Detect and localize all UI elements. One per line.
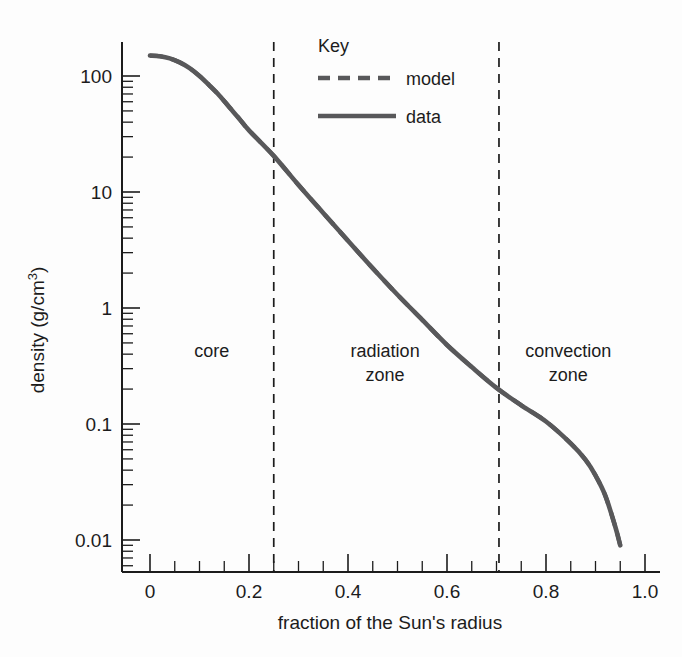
y-axis-title: density (g/cm3)	[25, 267, 48, 394]
axes	[122, 42, 660, 572]
y-tick-label: 0.1	[86, 414, 112, 435]
legend-label-model: model	[406, 69, 455, 89]
density-vs-radius-chart: 1001010.10.01 00.20.40.60.81.0 coreradia…	[0, 0, 682, 657]
x-axis-title: fraction of the Sun's radius	[278, 612, 502, 633]
legend-title: Key	[318, 36, 349, 56]
y-tick-label: 0.01	[75, 530, 112, 551]
zone-label: radiation	[351, 341, 420, 361]
zone-label-line2: zone	[549, 365, 588, 385]
legend: Key model data	[318, 36, 455, 127]
y-axis-tick-labels: 1001010.10.01	[75, 66, 112, 551]
x-axis-tick-labels: 00.20.40.60.81.0	[145, 581, 659, 602]
model-curve	[150, 56, 620, 546]
x-axis-ticks	[150, 554, 645, 572]
y-tick-label: 100	[80, 66, 112, 87]
y-tick-label: 10	[91, 182, 112, 203]
y-tick-label: 1	[101, 298, 112, 319]
zone-label: convection	[525, 341, 611, 361]
y-axis-ticks	[122, 76, 140, 566]
x-tick-label: 0.2	[236, 581, 262, 602]
x-tick-label: 0.6	[434, 581, 460, 602]
zone-labels: coreradiationzoneconvectionzone	[194, 341, 611, 385]
y-axis-title-group: density (g/cm3)	[25, 267, 48, 394]
x-tick-label: 0.4	[335, 581, 362, 602]
zone-label-line2: zone	[366, 365, 405, 385]
zone-divider-lines	[274, 42, 499, 572]
x-tick-label: 0	[145, 581, 156, 602]
data-curve	[150, 56, 620, 546]
x-tick-label: 1.0	[632, 581, 658, 602]
figure-container: 1001010.10.01 00.20.40.60.81.0 coreradia…	[0, 0, 682, 657]
zone-label: core	[194, 341, 229, 361]
x-tick-label: 0.8	[533, 581, 559, 602]
legend-label-data: data	[406, 107, 442, 127]
